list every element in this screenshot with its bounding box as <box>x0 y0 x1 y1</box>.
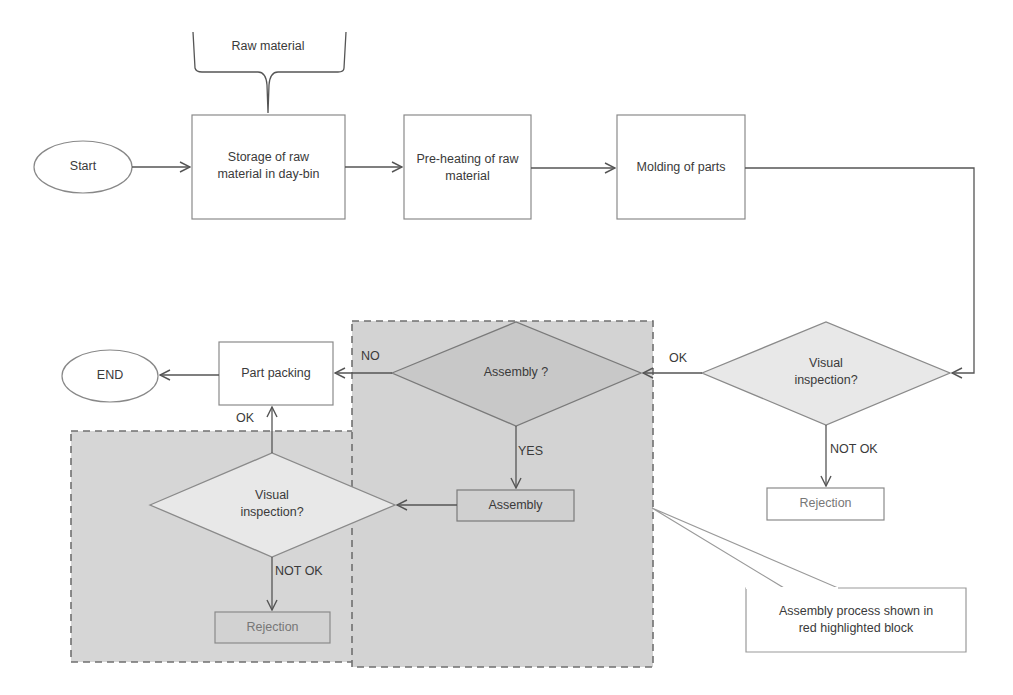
flowchart-canvas <box>0 0 1013 695</box>
edge-label-assembly-yes: YES <box>518 443 543 460</box>
visual-inspection-2-label: Visual inspection? <box>212 487 332 521</box>
edge-label-vi1-not-ok: NOT OK <box>830 441 878 458</box>
callout-label: Assembly process shown in red highlighte… <box>746 603 966 637</box>
storage-label: Storage of raw material in day-bin <box>192 149 345 183</box>
visual-inspection-1-label: Visual inspection? <box>766 355 886 389</box>
edge-label-vi1-ok: OK <box>669 350 687 367</box>
edge-label-vi2-not-ok: NOT OK <box>275 563 323 580</box>
part-packing-label: Part packing <box>219 365 333 382</box>
preheating-label: Pre-heating of raw material <box>404 151 531 185</box>
rejection-1-label: Rejection <box>767 495 884 512</box>
end-label: END <box>62 367 158 384</box>
edge-label-vi2-ok: OK <box>236 410 254 427</box>
raw-material-label: Raw material <box>205 38 331 55</box>
rejection-2-label: Rejection <box>215 619 330 636</box>
start-label: Start <box>34 158 132 175</box>
assembly-decision-label: Assembly ? <box>456 364 576 381</box>
assembly-label: Assembly <box>457 497 574 514</box>
molding-label: Molding of parts <box>617 159 745 176</box>
edge-label-assembly-no: NO <box>361 348 380 365</box>
